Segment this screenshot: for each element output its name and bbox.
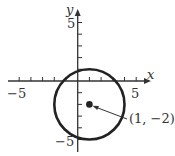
center-point xyxy=(86,101,93,108)
pointer-arrow-icon xyxy=(93,106,100,110)
coordinate-plane: x y 5 −5 −5 5 (1, −2) xyxy=(0,0,175,156)
pointer-line xyxy=(94,107,127,120)
x-pos-tick-label: 5 xyxy=(131,86,139,101)
x-neg-tick-label: −5 xyxy=(7,86,26,101)
y-axis-label: y xyxy=(65,2,74,17)
y-axis-arrow-icon xyxy=(75,9,81,16)
y-neg-tick-label: −5 xyxy=(55,134,74,149)
y-pos-tick-label: 5 xyxy=(67,16,75,31)
x-axis-label: x xyxy=(147,67,155,82)
center-point-label: (1, −2) xyxy=(129,111,175,126)
